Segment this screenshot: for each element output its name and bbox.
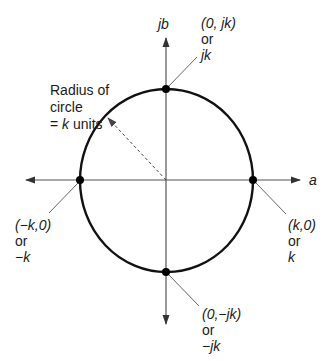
point-left-or: or bbox=[15, 233, 51, 249]
point-bottom-coord: (0,−jk) bbox=[202, 306, 241, 322]
radius-units: units bbox=[69, 116, 102, 132]
vertical-axis-label: jb bbox=[158, 16, 169, 32]
horizontal-axis-label: a bbox=[309, 172, 317, 188]
unit-circle-diagram: jb a Radius of circle = k units (0, jk) … bbox=[0, 0, 330, 361]
radius-arrow bbox=[108, 118, 166, 180]
point-left-label: (−k,0) or −k bbox=[15, 217, 51, 265]
point-right-value: k bbox=[288, 249, 316, 265]
point-bottom-or: or bbox=[202, 322, 241, 338]
point-right-label: (k,0) or k bbox=[288, 217, 316, 265]
radius-label-line2: circle bbox=[50, 99, 109, 116]
radius-label: Radius of circle = k units bbox=[50, 82, 109, 133]
point-top-or: or bbox=[201, 31, 236, 47]
radius-label-line1: Radius of bbox=[50, 82, 109, 99]
point-right-coord: (k,0) bbox=[288, 217, 316, 233]
leader-bottom bbox=[169, 275, 199, 306]
leader-top bbox=[168, 57, 197, 87]
point-left-value: −k bbox=[15, 249, 51, 265]
point-right bbox=[249, 176, 257, 184]
point-top bbox=[162, 85, 170, 93]
point-bottom-value: −jk bbox=[202, 338, 241, 354]
point-bottom-label: (0,−jk) or −jk bbox=[202, 306, 241, 354]
point-top-label: (0, jk) or jk bbox=[201, 15, 236, 63]
point-right-or: or bbox=[288, 233, 316, 249]
diagram-graphics bbox=[0, 0, 330, 361]
leader-right bbox=[256, 183, 286, 214]
point-top-value: jk bbox=[201, 47, 236, 63]
point-top-coord: (0, jk) bbox=[201, 15, 236, 31]
radius-eq: = bbox=[50, 116, 62, 132]
point-left-coord: (−k,0) bbox=[15, 217, 51, 233]
radius-label-line3: = k units bbox=[50, 116, 109, 133]
leader-left bbox=[49, 183, 78, 213]
point-bottom bbox=[162, 268, 170, 276]
point-left bbox=[76, 176, 84, 184]
